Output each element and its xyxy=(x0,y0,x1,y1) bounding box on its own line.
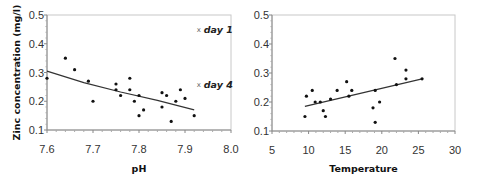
data-point xyxy=(374,121,377,124)
data-point xyxy=(193,114,196,117)
data-point xyxy=(64,57,67,60)
data-point xyxy=(183,97,186,100)
y-tick-label: 0.2 xyxy=(29,95,44,107)
data-point xyxy=(395,83,398,86)
y-tick-label: 0.5 xyxy=(254,9,269,21)
y-tick-label: 0.1 xyxy=(29,124,44,136)
data-point xyxy=(137,94,140,97)
data-point xyxy=(336,89,339,92)
y-tick-label: 0.1 xyxy=(254,125,269,137)
annotation-label: day 1 xyxy=(204,24,233,35)
data-point xyxy=(378,100,381,103)
y-tick-label: 0.5 xyxy=(29,9,44,21)
data-point xyxy=(322,109,325,112)
data-point xyxy=(329,98,332,101)
y-tick-label: 0.2 xyxy=(254,96,269,108)
x-tick-label: 7.7 xyxy=(85,143,100,155)
data-point xyxy=(142,108,145,111)
plot-frame xyxy=(272,15,455,131)
data-point xyxy=(119,94,122,97)
y-tick-label: 0.4 xyxy=(254,38,269,50)
y-axis-title: Zinc concentration (mg/l) xyxy=(11,5,22,141)
x-tick-label: 25 xyxy=(412,144,424,156)
data-point xyxy=(114,88,117,91)
data-point xyxy=(179,88,182,91)
data-point xyxy=(404,77,407,80)
x-tick-label: 30 xyxy=(449,144,461,156)
data-point xyxy=(128,77,131,80)
data-point xyxy=(324,115,327,118)
y-tick-label: 0.3 xyxy=(254,67,269,79)
x-tick-label: 10 xyxy=(302,144,314,156)
x-marker-icon: x xyxy=(197,81,201,89)
data-point xyxy=(311,89,314,92)
annotation-label: day 4 xyxy=(204,79,233,90)
y-tick-label: 0.4 xyxy=(29,38,44,50)
data-point xyxy=(345,80,348,83)
data-point xyxy=(319,100,322,103)
x-tick-label: 15 xyxy=(339,144,351,156)
zinc-vs-temperature-chart: 0.10.20.30.40.551015202530Temperature xyxy=(254,9,461,174)
trend-line xyxy=(305,79,422,107)
x-tick-label: 7.9 xyxy=(177,143,192,155)
data-point xyxy=(347,95,350,98)
x-tick-label: 7.8 xyxy=(131,143,146,155)
data-point xyxy=(91,100,94,103)
x-tick-label: 8.0 xyxy=(223,143,238,155)
data-point xyxy=(160,91,163,94)
data-point xyxy=(420,77,423,80)
data-point xyxy=(350,89,353,92)
data-point xyxy=(160,105,163,108)
data-point xyxy=(45,77,48,80)
data-point xyxy=(371,106,374,109)
zinc-vs-ph-chart: 0.10.20.30.40.57.67.77.87.98.0pHZinc con… xyxy=(11,5,239,174)
y-tick-label: 0.3 xyxy=(29,67,44,79)
x-tick-label: 5 xyxy=(269,144,275,156)
data-point xyxy=(374,89,377,92)
data-point xyxy=(87,80,90,83)
data-point xyxy=(128,88,131,91)
data-point xyxy=(404,69,407,72)
data-point xyxy=(133,100,136,103)
data-point xyxy=(303,115,306,118)
x-tick-label: 20 xyxy=(376,144,388,156)
data-point xyxy=(114,82,117,85)
x-axis-title: Temperature xyxy=(329,163,397,174)
x-axis-title: pH xyxy=(132,163,147,174)
data-point xyxy=(170,120,173,123)
data-point xyxy=(165,94,168,97)
trend-line xyxy=(47,71,194,110)
data-point xyxy=(393,57,396,60)
data-point xyxy=(314,100,317,103)
charts-figure: 0.10.20.30.40.57.67.77.87.98.0pHZinc con… xyxy=(0,0,478,182)
data-point xyxy=(73,68,76,71)
x-marker-icon: x xyxy=(197,26,201,34)
data-point xyxy=(137,114,140,117)
data-point xyxy=(305,95,308,98)
data-point xyxy=(174,100,177,103)
x-tick-label: 7.6 xyxy=(39,143,54,155)
